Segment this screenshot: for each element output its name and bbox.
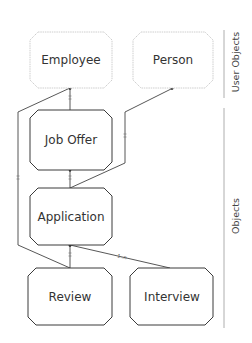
- node-job-offer[interactable]: Job Offer: [30, 110, 112, 170]
- node-label: Review: [49, 290, 92, 304]
- lane-label-objects: Objects: [230, 198, 241, 234]
- node-label: Interview: [144, 290, 200, 304]
- node-review[interactable]: Review: [28, 268, 112, 325]
- lane-label-user-objects: User Objects: [230, 32, 241, 93]
- node-label: Person: [153, 53, 193, 67]
- node-application[interactable]: Application: [30, 188, 112, 245]
- node-label: Application: [37, 210, 104, 224]
- node-label: Employee: [41, 53, 100, 67]
- node-label: Job Offer: [44, 133, 97, 147]
- node-person[interactable]: Person: [133, 32, 213, 88]
- diagram-canvas: 1..n Employee Person Job Offer Applicati…: [0, 0, 252, 343]
- node-employee[interactable]: Employee: [30, 32, 112, 88]
- node-interview[interactable]: Interview: [130, 268, 213, 325]
- multiplicity-label: 1..n: [117, 252, 128, 260]
